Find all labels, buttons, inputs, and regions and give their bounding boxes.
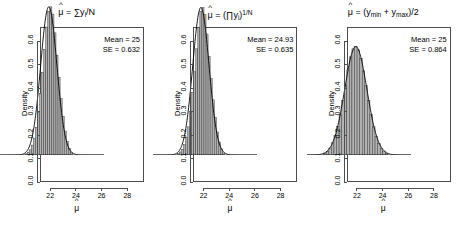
stats-annotation: Mean = 25SE = 0.864 <box>409 35 446 54</box>
y-tick-label: 0.1 <box>333 151 340 163</box>
x-tick-label: 28 <box>123 192 131 199</box>
y-tick-label: 0.2 <box>333 128 340 140</box>
y-tick-label: 0.2 <box>27 128 34 140</box>
hat-accent: ^ <box>228 198 232 204</box>
y-tick-label: 0.6 <box>27 34 34 46</box>
y-tick-label: 0.6 <box>333 34 340 46</box>
y-axis-title: Density <box>173 83 182 123</box>
x-axis-title: ^μ <box>0 203 153 213</box>
plot-contents: Mean = 25SE = 0.8640.00.10.20.30.40.50.6… <box>307 0 460 233</box>
x-tick-label: 22 <box>46 192 54 199</box>
y-tick-label: 0.0 <box>180 175 187 187</box>
x-tick-label: 28 <box>277 192 285 199</box>
y-axis-line <box>37 41 38 182</box>
histogram-bar <box>52 14 54 155</box>
histogram-bar <box>44 49 46 155</box>
mu-hat-symbol: ^μ <box>74 203 79 213</box>
y-axis-line <box>344 41 345 182</box>
panel-midrange: ^μ = (ymin + ymax)/2 Mean = 25SE = 0.864… <box>307 0 460 233</box>
histogram-bar <box>33 138 35 155</box>
se-label: SE = 0.864 <box>409 45 446 55</box>
distribution-plot <box>307 0 411 155</box>
stats-annotation: Mean = 24.93SE = 0.635 <box>247 35 293 54</box>
histogram-bar <box>40 93 42 155</box>
distribution-plot <box>153 0 257 155</box>
x-tick-label: 26 <box>98 192 106 199</box>
y-axis-title: Density <box>326 83 335 123</box>
x-tick-label: 28 <box>430 192 438 199</box>
figure-canvas: ^μ = ∑yi/N Mean = 25SE = 0.6320.00.10.20… <box>0 0 460 233</box>
se-label: SE = 0.632 <box>103 45 140 55</box>
histogram-bar <box>202 8 204 155</box>
x-tick-label: 26 <box>404 192 412 199</box>
y-tick-label: 0.0 <box>27 175 34 187</box>
x-axis-title: ^μ <box>307 203 460 213</box>
hat-accent: ^ <box>75 198 79 204</box>
histogram-bar <box>46 27 48 155</box>
y-tick-label: 0.1 <box>180 151 187 163</box>
histogram-bar <box>362 71 365 155</box>
y-tick-label: 0.2 <box>180 128 187 140</box>
y-axis-title: Density <box>20 83 29 123</box>
y-tick-label: 0.6 <box>180 34 187 46</box>
y-axis-line <box>190 41 191 182</box>
histogram-bar <box>367 101 370 155</box>
histogram-bar <box>382 152 385 155</box>
hat-accent: ^ <box>381 198 385 204</box>
plot-contents: Mean = 25SE = 0.6320.00.10.20.30.40.50.6… <box>0 0 153 233</box>
histogram-bar <box>349 57 352 155</box>
histogram-bar <box>354 47 357 156</box>
x-axis-line <box>357 188 434 189</box>
histogram-bar <box>50 7 52 155</box>
histogram-bar <box>48 11 50 155</box>
panel-geometric: ^μ = (∏yi)1/N Mean = 24.93SE = 0.6350.00… <box>153 0 306 233</box>
distribution-plot <box>0 0 104 155</box>
histogram-bar <box>352 49 355 155</box>
histogram-bar <box>194 72 196 155</box>
y-tick-label: 0.5 <box>333 57 340 69</box>
y-tick-label: 0.0 <box>333 175 340 187</box>
histogram-bar <box>42 72 44 155</box>
histogram-bar <box>346 70 349 155</box>
panel-mean: ^μ = ∑yi/N Mean = 25SE = 0.6320.00.10.20… <box>0 0 153 233</box>
mean-label: Mean = 24.93 <box>247 35 293 45</box>
histogram-bar <box>196 49 198 155</box>
stats-annotation: Mean = 25SE = 0.632 <box>103 35 140 54</box>
histogram-bar <box>359 58 362 155</box>
x-axis-title: ^μ <box>153 203 306 213</box>
histogram-bar <box>192 93 194 155</box>
se-label: SE = 0.635 <box>247 45 293 55</box>
x-axis-line <box>50 188 127 189</box>
histogram-bar <box>204 15 206 155</box>
histogram-bar <box>357 50 360 155</box>
x-tick-label: 26 <box>251 192 259 199</box>
histogram-bar <box>198 27 200 155</box>
plot-contents: Mean = 24.93SE = 0.6350.00.10.20.30.40.5… <box>153 0 306 233</box>
mean-label: Mean = 25 <box>409 35 446 45</box>
mu-hat-symbol: ^μ <box>381 203 386 213</box>
mean-label: Mean = 25 <box>103 35 140 45</box>
y-tick-label: 0.1 <box>27 151 34 163</box>
histogram-bar <box>200 12 202 155</box>
y-tick-label: 0.5 <box>180 57 187 69</box>
x-axis-line <box>204 188 281 189</box>
mu-hat-symbol: ^μ <box>228 203 233 213</box>
y-tick-label: 0.5 <box>27 57 34 69</box>
x-tick-label: 22 <box>353 192 361 199</box>
histogram-bar <box>370 115 373 155</box>
x-tick-label: 22 <box>200 192 208 199</box>
histogram-bar <box>364 86 367 155</box>
